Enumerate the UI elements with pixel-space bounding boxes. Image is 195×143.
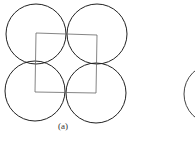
diagram-figure [0, 0, 195, 143]
figure-label-a: (a) [58, 121, 68, 131]
partial-circle-b [184, 64, 195, 124]
